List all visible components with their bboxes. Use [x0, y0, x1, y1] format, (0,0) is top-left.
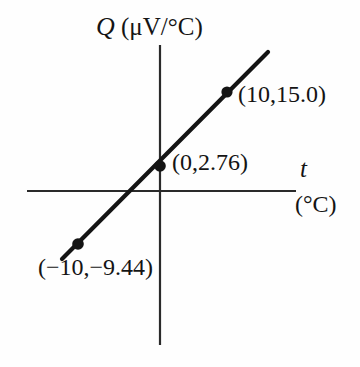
plot-area [0, 0, 360, 367]
y-axis-unit: (μV/°C) [115, 13, 203, 40]
data-point-label-lower-left: (−10,−9.44) [38, 255, 153, 279]
x-axis-unit-label: (°C) [295, 192, 337, 216]
data-point-label-upper-right: (10,15.0) [238, 82, 326, 106]
data-point-label-intercept: (0,2.76) [172, 150, 248, 174]
thermocouple-sensitivity-figure: Q (μV/°C) t (°C) (10,15.0) (0,2.76) (−10… [0, 0, 360, 367]
data-point-marker [221, 86, 232, 97]
data-point-marker [72, 238, 84, 250]
data-point-marker [154, 160, 166, 172]
y-axis-symbol: Q [96, 12, 115, 41]
y-axis-label: Q (μV/°C) [96, 14, 203, 40]
x-axis-label: t [300, 156, 307, 181]
